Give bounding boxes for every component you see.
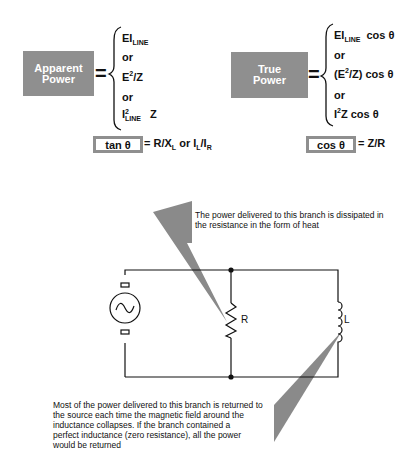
inductor-label: L: [344, 314, 350, 325]
inductance-callout-pointer: [274, 331, 342, 442]
junction-dot-bottom: [228, 374, 233, 379]
resistance-callout-text: The power delivered to this branch is di…: [195, 210, 384, 230]
resistor-label: R: [241, 314, 248, 325]
inductance-callout-text: Most of the power delivered to this bran…: [53, 400, 263, 450]
junction-dot-top: [228, 267, 233, 272]
